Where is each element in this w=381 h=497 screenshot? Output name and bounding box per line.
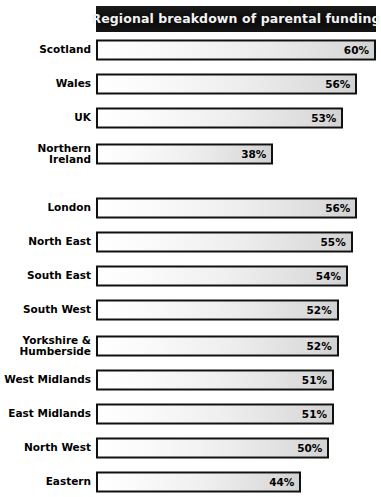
bar-row: Wales56% <box>0 73 380 95</box>
bar-group-english-regions: London56%North East55%South East54%South… <box>0 197 380 497</box>
bar-value-label: 56% <box>325 79 355 90</box>
bar: 38% <box>96 144 273 165</box>
bar-row: London56% <box>0 197 380 219</box>
bar-category-label: Wales <box>0 73 92 95</box>
bar-category-label: Scotland <box>0 39 92 61</box>
bar-track: 55% <box>96 231 378 253</box>
chart-title-banner: Regional breakdown of parental funding <box>96 6 376 32</box>
bar-value-label: 54% <box>316 271 346 282</box>
bar-value-label: 51% <box>302 375 332 386</box>
bar-value-label: 38% <box>241 149 271 160</box>
bar-row: Eastern44% <box>0 471 380 493</box>
bar-value-label: 56% <box>325 203 355 214</box>
bar-value-label: 53% <box>311 113 341 124</box>
bar: 53% <box>96 108 343 129</box>
bar-track: 54% <box>96 265 378 287</box>
chart-title: Regional breakdown of parental funding <box>91 13 380 26</box>
bar-category-label: London <box>0 197 92 219</box>
bar-category-label: Eastern <box>0 471 92 493</box>
bar-row: UK53% <box>0 107 380 129</box>
bar-category-label: South East <box>0 265 92 287</box>
bar-row: West Midlands51% <box>0 369 380 391</box>
bar-category-label: East Midlands <box>0 403 92 425</box>
bar-track: 52% <box>96 299 378 321</box>
bar-track: 38% <box>96 141 378 167</box>
bar-track: 56% <box>96 197 378 219</box>
bar: 50% <box>96 438 329 459</box>
bar-track: 44% <box>96 471 378 493</box>
bar: 44% <box>96 472 301 493</box>
bar-value-label: 52% <box>307 341 337 352</box>
bar: 52% <box>96 300 339 321</box>
bar-row: East Midlands51% <box>0 403 380 425</box>
bar-track: 51% <box>96 369 378 391</box>
bar: 51% <box>96 404 334 425</box>
bar: 51% <box>96 370 334 391</box>
bar-row: Northern Ireland38% <box>0 141 380 167</box>
bar-category-label: North West <box>0 437 92 459</box>
bar: 60% <box>96 40 376 61</box>
bar-category-label: West Midlands <box>0 369 92 391</box>
bar-track: 56% <box>96 73 378 95</box>
bar-row: North West50% <box>0 437 380 459</box>
bar-value-label: 52% <box>307 305 337 316</box>
bar-track: 51% <box>96 403 378 425</box>
bar-row: South West52% <box>0 299 380 321</box>
bar-row: Scotland60% <box>0 39 380 61</box>
bar-category-label: Yorkshire & Humberside <box>0 333 92 359</box>
bar: 55% <box>96 232 353 253</box>
bar-category-label: UK <box>0 107 92 129</box>
bar-track: 53% <box>96 107 378 129</box>
bar-track: 52% <box>96 333 378 359</box>
bar-category-label: South West <box>0 299 92 321</box>
bar-value-label: 55% <box>321 237 351 248</box>
bar-row: South East54% <box>0 265 380 287</box>
bar-track: 60% <box>96 39 378 61</box>
bar: 52% <box>96 336 339 357</box>
bar: 54% <box>96 266 348 287</box>
bar-row: North East55% <box>0 231 380 253</box>
bar-value-label: 44% <box>269 477 299 488</box>
bar: 56% <box>96 198 357 219</box>
bar-category-label: Northern Ireland <box>0 141 92 167</box>
bar-row: Yorkshire & Humberside52% <box>0 333 380 359</box>
bar-track: 50% <box>96 437 378 459</box>
bar-value-label: 51% <box>302 409 332 420</box>
bar-category-label: North East <box>0 231 92 253</box>
bar-value-label: 60% <box>344 45 374 56</box>
bar-group-nations: Scotland60%Wales56%UK53%Northern Ireland… <box>0 39 380 177</box>
bar: 56% <box>96 74 357 95</box>
bar-value-label: 50% <box>297 443 327 454</box>
